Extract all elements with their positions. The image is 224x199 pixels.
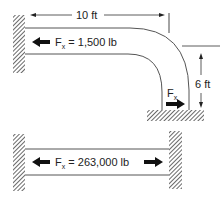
pipe-diagram: 10 ft 6 ft Fx = 1,500 lb Fx Fx = 263,000… (0, 0, 224, 199)
force-label-main: Fx = 1,500 lb (55, 36, 117, 50)
top-figure: 10 ft 6 ft Fx = 1,500 lb Fx (13, 9, 220, 121)
ground-anchor (147, 110, 204, 121)
left-wall-anchor-bottom (13, 134, 25, 191)
force-arrow-left-icon (32, 37, 50, 47)
force-label-elbow: Fx (167, 87, 178, 101)
pipe-inner-wall (25, 54, 162, 110)
force-arrow-right-icon (144, 157, 163, 167)
force-label-bottom: Fx = 263,000 lb (55, 156, 129, 170)
dimension-label-10ft: 10 ft (76, 9, 97, 21)
dimension-label-6ft: 6 ft (195, 78, 210, 90)
left-wall-anchor (13, 15, 25, 73)
right-wall-anchor-bottom (169, 131, 182, 189)
force-arrow-left-icon (32, 157, 50, 167)
bottom-figure: Fx = 263,000 lb (13, 131, 182, 191)
